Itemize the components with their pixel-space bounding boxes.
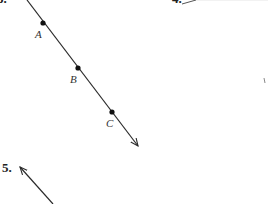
point-label-a: A [35,28,42,40]
point-label-c: C [106,117,113,129]
figure-4-partial [182,0,268,83]
point-label-b: B [70,73,77,85]
problem-number-3: 3. [0,0,7,7]
point-b [75,65,80,70]
point-a [40,20,45,25]
problem-number-5: 5. [2,160,12,176]
figure-3-ray [27,0,138,146]
figure-5-ray [20,167,53,204]
problem-number-4: 4. [172,0,182,7]
point-c [109,109,114,114]
